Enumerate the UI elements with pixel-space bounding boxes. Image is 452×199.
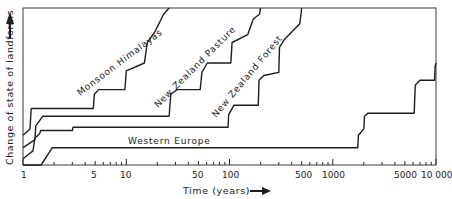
series-label-western-europe: Western Europe <box>128 136 211 146</box>
tick-label-1: 1 <box>21 170 27 180</box>
x-axis-ticks <box>23 159 436 165</box>
x-axis-tick-labels: 1 5 10 50 100 500 1000 5000 10 000 <box>21 170 452 180</box>
landform-change-chart: 1 5 10 50 100 500 1000 5000 10 000 Time … <box>0 0 452 199</box>
x-axis-label: Time (years) <box>182 185 250 196</box>
tick-label-10: 10 <box>120 170 132 180</box>
series-label-monsoon-himalayas: Monsoon Himalayas <box>75 27 164 98</box>
tick-label-10000: 10 000 <box>421 170 452 180</box>
tick-label-5000: 5000 <box>394 170 417 180</box>
tick-label-500: 500 <box>295 170 312 180</box>
x-axis-arrow-icon <box>250 187 271 195</box>
tick-label-5: 5 <box>91 170 97 180</box>
tick-label-100: 100 <box>222 170 239 180</box>
tick-label-1000: 1000 <box>322 170 345 180</box>
tick-label-50: 50 <box>192 170 204 180</box>
